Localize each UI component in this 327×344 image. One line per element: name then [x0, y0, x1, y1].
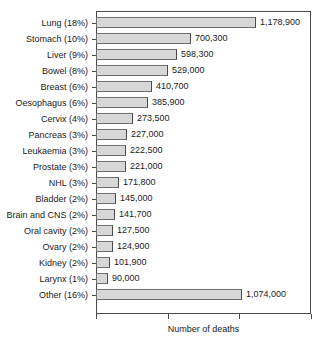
category-label: Bowel (8%): [0, 64, 88, 78]
category-label: Liver (9%): [0, 48, 88, 62]
x-axis-tick: [239, 314, 240, 319]
bar-value-label: 598,300: [181, 48, 214, 61]
category-label: Leukaemia (3%): [0, 144, 88, 158]
category-label: Oral cavity (2%): [0, 224, 88, 238]
bar: [96, 177, 119, 188]
bar-row: Bladder (2%)145,000: [0, 191, 327, 207]
bar: [96, 17, 256, 28]
bar-value-label: 227,000: [131, 128, 164, 141]
bar-value-label: 221,000: [130, 160, 163, 173]
category-label: Other (16%): [0, 288, 88, 302]
bar-value-label: 385,900: [152, 96, 185, 109]
bar-value-label: 171,800: [123, 176, 156, 189]
category-label: NHL (3%): [0, 176, 88, 190]
x-axis-tick: [168, 314, 169, 319]
bar-value-label: 1,178,900: [260, 16, 300, 29]
bar: [96, 225, 113, 236]
bar-row: Pancreas (3%)227,000: [0, 127, 327, 143]
bar: [96, 129, 127, 140]
category-label: Bladder (2%): [0, 192, 88, 206]
bar: [96, 289, 242, 300]
bar: [96, 81, 152, 92]
bar-value-label: 700,300: [195, 32, 228, 45]
bar-row: Liver (9%)598,300: [0, 47, 327, 63]
bar-rows-container: Lung (18%)1,178,900Stomach (10%)700,300L…: [0, 11, 327, 314]
bar: [96, 241, 113, 252]
bar-value-label: 101,900: [114, 256, 147, 269]
bar-value-label: 273,500: [137, 112, 170, 125]
bar-value-label: 90,000: [112, 272, 140, 285]
bar-row: Oesophagus (6%)385,900: [0, 95, 327, 111]
category-label: Brain and CNS (2%): [0, 208, 88, 222]
bar-row: Stomach (10%)700,300: [0, 31, 327, 47]
bar-row: Cervix (4%)273,500: [0, 111, 327, 127]
bar-row: Bowel (8%)529,000: [0, 63, 327, 79]
bar-row: Prostate (3%)221,000: [0, 159, 327, 175]
bar-value-label: 222,500: [130, 144, 163, 157]
x-axis-tick: [96, 314, 97, 319]
bar: [96, 113, 133, 124]
bar-row: Brain and CNS (2%)141,700: [0, 207, 327, 223]
bar-value-label: 529,000: [172, 64, 205, 77]
bar-value-label: 141,700: [119, 208, 152, 221]
category-label: Prostate (3%): [0, 160, 88, 174]
bar: [96, 97, 148, 108]
category-label: Stomach (10%): [0, 32, 88, 46]
category-label: Breast (6%): [0, 80, 88, 94]
category-label: Oesophagus (6%): [0, 96, 88, 110]
bar-row: Ovary (2%)124,900: [0, 239, 327, 255]
bar: [96, 145, 126, 156]
bar-row: Oral cavity (2%)127,500: [0, 223, 327, 239]
bar: [96, 257, 110, 268]
bar: [96, 161, 126, 172]
bar-row: Breast (6%)410,700: [0, 79, 327, 95]
bar: [96, 209, 115, 220]
category-label: Lung (18%): [0, 16, 88, 30]
bar-row: Kidney (2%)101,900: [0, 255, 327, 271]
x-axis-tick: [311, 314, 312, 319]
bar-value-label: 127,500: [117, 224, 150, 237]
category-label: Pancreas (3%): [0, 128, 88, 142]
bar: [96, 273, 108, 284]
bar-row: Larynx (1%)90,000: [0, 271, 327, 287]
bar: [96, 65, 168, 76]
x-axis-title: Number of deaths: [96, 324, 311, 334]
bar: [96, 49, 177, 60]
bar-value-label: 145,000: [120, 192, 153, 205]
bar-row: Lung (18%)1,178,900: [0, 15, 327, 31]
bar-value-label: 1,074,000: [246, 288, 286, 301]
bar-value-label: 410,700: [156, 80, 189, 93]
bar: [96, 33, 191, 44]
bar-value-label: 124,900: [117, 240, 150, 253]
bar-row: Leukaemia (3%)222,500: [0, 143, 327, 159]
category-label: Larynx (1%): [0, 272, 88, 286]
category-label: Kidney (2%): [0, 256, 88, 270]
bar: [96, 193, 116, 204]
category-label: Ovary (2%): [0, 240, 88, 254]
category-label: Cervix (4%): [0, 112, 88, 126]
bar-row: NHL (3%)171,800: [0, 175, 327, 191]
bar-row: Other (16%)1,074,000: [0, 287, 327, 303]
bar-chart: Lung (18%)1,178,900Stomach (10%)700,300L…: [0, 0, 327, 344]
